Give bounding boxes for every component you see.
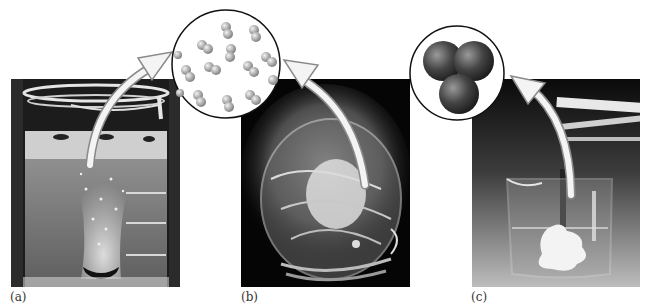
photo-a-beaker-bubbles [11, 79, 180, 287]
panel-label-c: (c) [471, 290, 487, 304]
photo-c-beaker-precipitate [472, 79, 640, 287]
panel-label-a: (a) [10, 290, 27, 304]
panel-label-b: (b) [241, 290, 258, 304]
photo-b-beaker-vapor [241, 79, 410, 287]
